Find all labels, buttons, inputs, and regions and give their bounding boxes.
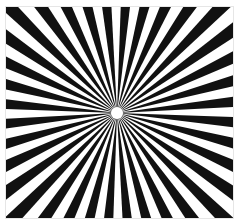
starburst-graphic (0, 0, 241, 224)
center-spot (111, 107, 123, 119)
starburst-image (0, 0, 241, 224)
